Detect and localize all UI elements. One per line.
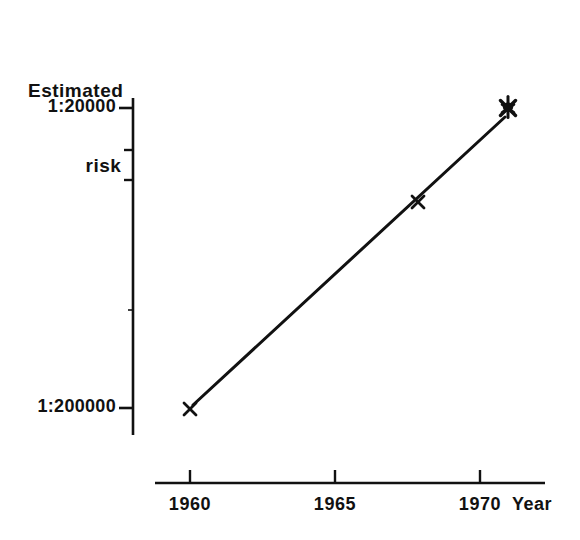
y-tick-label-bottom: 1:200000 xyxy=(8,396,116,417)
x-tick-label-1965: 1965 xyxy=(290,494,380,515)
x-axis-title: Year xyxy=(512,494,552,515)
y-axis-title: Estimated risk xyxy=(28,28,123,228)
risk-year-chart: Estimated risk 1:20000 1:200000 1960 196… xyxy=(0,0,580,540)
data-point-marker-cluster xyxy=(501,97,516,118)
data-point-marker-1961 xyxy=(184,403,196,415)
marker-overlap-blob xyxy=(503,102,513,111)
data-series xyxy=(184,97,516,416)
x-tick-label-1960: 1960 xyxy=(145,494,235,515)
y-tick-label-top: 1:20000 xyxy=(18,96,116,117)
x-axis xyxy=(155,470,545,483)
trend-line xyxy=(193,117,505,405)
y-axis-title-line2: risk xyxy=(28,153,123,178)
